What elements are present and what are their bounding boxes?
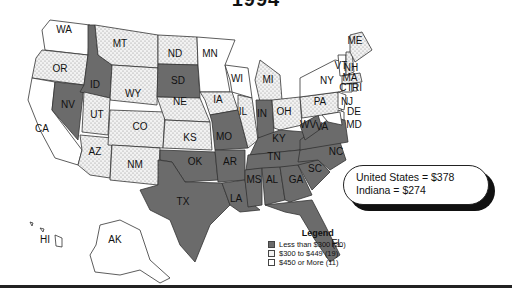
state-label-md: MD (346, 119, 362, 130)
state-label-id: ID (90, 79, 100, 90)
state-label-ks: KS (183, 132, 197, 143)
indiana-value-text: Indiana = $274 (356, 184, 488, 197)
state-label-pa: PA (314, 96, 327, 107)
legend-swatch-mid (268, 250, 275, 257)
state-label-tn: TN (267, 151, 280, 162)
state-label-ok: OK (188, 156, 203, 167)
state-label-ms: MS (247, 174, 262, 185)
state-label-in: IN (257, 108, 267, 119)
state-label-mn: MN (202, 48, 218, 59)
legend-item-low: Less than $300 (20) (268, 240, 346, 249)
legend-label: Less than $300 (20) (279, 240, 346, 249)
legend-item-mid: $300 to $449 (19) (268, 249, 346, 258)
state-label-mo: MO (216, 131, 232, 142)
state-label-oh: OH (277, 106, 292, 117)
state-label-ri: RI (352, 82, 362, 93)
state-label-or: OR (53, 63, 68, 74)
summary-callout: United States = $378 Indiana = $274 (343, 165, 489, 205)
us-map: WAORCANVIDMTWYUTAZCONMNDSDNEKSOKTXMNIAMO… (0, 0, 512, 298)
state-in (256, 100, 274, 138)
state-label-ar: AR (223, 156, 237, 167)
state-mn (197, 37, 235, 92)
legend: Legend Less than $300 (20) $300 to $449 … (268, 228, 346, 267)
legend-title: Legend (290, 228, 346, 238)
state-label-ia: IA (213, 94, 223, 105)
state-label-az: AZ (89, 146, 102, 157)
state-label-wy: WY (125, 88, 141, 99)
state-label-la: LA (230, 193, 243, 204)
state-label-wi: WI (231, 73, 243, 84)
state-label-ky: KY (272, 133, 286, 144)
state-label-wv: WV (300, 119, 316, 130)
state-label-ut: UT (90, 109, 103, 120)
legend-label: $300 to $449 (19) (279, 249, 338, 258)
state-label-wa: WA (56, 24, 72, 35)
state-label-ca: CA (35, 123, 49, 134)
legend-swatch-low (268, 241, 275, 248)
state-label-ak: AK (108, 234, 122, 245)
state-label-mt: MT (113, 38, 127, 49)
state-label-nv: NV (61, 99, 75, 110)
state-label-mi: MI (262, 74, 273, 85)
state-label-hi: HI (40, 234, 50, 245)
state-label-ne: NE (173, 96, 187, 107)
state-label-ny: NY (320, 75, 334, 86)
state-label-il: IL (239, 106, 248, 117)
state-label-va: VA (316, 121, 329, 132)
footer-divider (0, 285, 512, 288)
state-label-al: AL (266, 174, 279, 185)
state-label-tx: TX (177, 196, 190, 207)
state-label-me: ME (348, 35, 363, 46)
legend-label: $450 or More (11) (279, 258, 338, 267)
us-value-text: United States = $378 (356, 171, 488, 184)
state-label-nm: NM (127, 159, 143, 170)
state-label-nd: ND (168, 48, 182, 59)
state-label-ct: CT (339, 82, 352, 93)
state-label-co: CO (133, 121, 148, 132)
legend-swatch-high (268, 259, 275, 266)
state-label-nc: NC (329, 146, 343, 157)
state-wy (110, 65, 158, 105)
legend-item-high: $450 or More (11) (268, 258, 346, 267)
state-label-sc: SC (308, 163, 322, 174)
state-ak (90, 220, 170, 283)
state-label-sd: SD (171, 75, 185, 86)
state-label-de: DE (347, 106, 361, 117)
state-label-ga: GA (289, 174, 304, 185)
